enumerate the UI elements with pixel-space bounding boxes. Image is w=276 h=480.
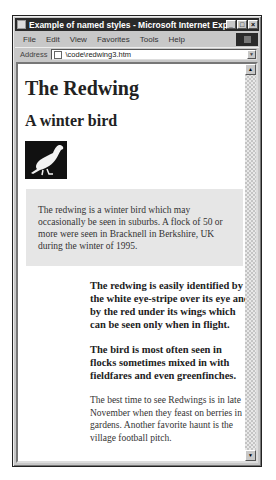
page-subheading: A winter bird — [25, 112, 243, 130]
bold-paragraph-flocks: The bird is most often seen in flocks so… — [90, 343, 250, 382]
address-label: Address — [15, 50, 51, 59]
page-heading: The Redwing — [25, 77, 243, 100]
menu-tools[interactable]: Tools — [135, 35, 164, 44]
shaded-paragraph: The redwing is a winter bird which may o… — [26, 189, 243, 266]
address-value[interactable]: \code\redwing3.htm — [66, 50, 247, 59]
page-viewport: The Redwing A winter bird The redwing is… — [16, 62, 258, 463]
menu-file[interactable]: File — [15, 35, 41, 44]
page-icon — [54, 51, 62, 59]
scroll-up-button[interactable]: ▲ — [245, 64, 256, 75]
menu-favorites[interactable]: Favorites — [92, 35, 135, 44]
ie-throbber-logo-icon — [236, 33, 258, 46]
menu-view[interactable]: View — [65, 35, 92, 44]
maximize-button[interactable]: □ — [237, 20, 247, 29]
minimize-button[interactable]: _ — [226, 20, 236, 29]
menu-help[interactable]: Help — [163, 35, 189, 44]
ie-page-icon[interactable] — [17, 20, 26, 29]
browser-window: Example of named styles - Microsoft Inte… — [12, 15, 262, 467]
bold-paragraph-identification: The redwing is easily identified by the … — [90, 279, 250, 331]
address-dropdown-button[interactable]: ▼ — [247, 50, 256, 59]
page-body: The Redwing A winter bird The redwing is… — [25, 64, 243, 444]
bird-icon — [25, 141, 67, 179]
window-title: Example of named styles - Microsoft Inte… — [29, 20, 226, 30]
vertical-scrollbar[interactable]: ▲ ▼ — [245, 64, 256, 461]
window-controls: _ □ × — [226, 20, 258, 29]
menu-bar: File Edit View Favorites Tools Help — [15, 32, 259, 46]
address-input[interactable]: \code\redwing3.htm ▼ — [51, 49, 257, 60]
close-button[interactable]: × — [248, 20, 258, 29]
title-bar[interactable]: Example of named styles - Microsoft Inte… — [15, 18, 259, 31]
address-bar: Address \code\redwing3.htm ▼ — [15, 47, 259, 61]
scroll-down-button[interactable]: ▼ — [245, 450, 256, 461]
menu-edit[interactable]: Edit — [41, 35, 65, 44]
plain-paragraph: The best time to see Redwings is in late… — [90, 394, 250, 444]
